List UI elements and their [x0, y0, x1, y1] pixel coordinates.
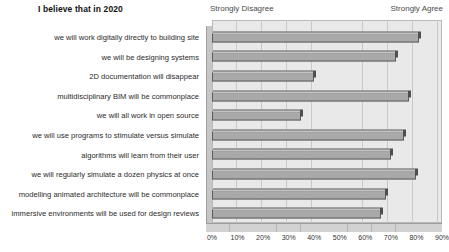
- x-axis-tick-label: 40%: [307, 234, 321, 241]
- bar[interactable]: [212, 151, 391, 160]
- bar-row: [212, 126, 442, 146]
- bar[interactable]: [212, 112, 301, 121]
- plot-area: [206, 20, 442, 232]
- category-label: we will work digitally directly to build…: [0, 28, 205, 48]
- x-axis-tick-label: 90%: [435, 234, 449, 241]
- category-label-text: multidisciplinary BIM will be commonplac…: [57, 93, 199, 101]
- page-title: I believe that in 2020: [38, 4, 123, 14]
- bar[interactable]: [212, 190, 386, 199]
- bar-row: [212, 87, 442, 107]
- x-axis-tick-label: 0%: [207, 234, 217, 241]
- plot-floor: [206, 223, 442, 232]
- category-label-text: we will work digitally directly to build…: [54, 34, 199, 42]
- category-label: we will all work in open source: [0, 106, 205, 126]
- category-label-list: we will work digitally directly to build…: [0, 28, 205, 224]
- bar-row: [212, 28, 442, 48]
- bar-row: [212, 48, 442, 68]
- x-axis: 0%10%20%30%40%50%60%70%80%90%: [206, 234, 442, 248]
- category-label: modelling animated architecture will be …: [0, 185, 205, 205]
- bar[interactable]: [212, 210, 381, 219]
- category-label: we will use programs to stimulate versus…: [0, 126, 205, 146]
- bar-series: [212, 28, 442, 224]
- x-axis-tick-label: 50%: [333, 234, 347, 241]
- axis-anchor-low-label: Strongly Disagree: [210, 4, 274, 13]
- category-label-text: algorithms will learn from their user: [81, 152, 199, 160]
- category-label: 2D documentation will disappear: [0, 67, 205, 87]
- bar[interactable]: [212, 72, 314, 81]
- x-axis-tick-label: 10%: [231, 234, 245, 241]
- category-label: multidisciplinary BIM will be commonplac…: [0, 87, 205, 107]
- bar[interactable]: [212, 92, 409, 101]
- bar-row: [212, 165, 442, 185]
- category-label-text: immersive environments will be used for …: [12, 210, 199, 218]
- bar-row: [212, 204, 442, 224]
- x-axis-tick-label: 30%: [282, 234, 296, 241]
- bar[interactable]: [212, 53, 396, 62]
- bar-row: [212, 146, 442, 166]
- category-label: algorithms will learn from their user: [0, 146, 205, 166]
- bar-row: [212, 67, 442, 87]
- axis-anchor-high-label: Strongly Agree: [391, 4, 443, 13]
- bar[interactable]: [212, 33, 419, 42]
- category-label-text: we will regularly simulate a dozen physi…: [31, 171, 199, 179]
- category-label: we will regularly simulate a dozen physi…: [0, 165, 205, 185]
- x-axis-tick-label: 80%: [409, 234, 423, 241]
- category-label-text: we will be designing systems: [102, 54, 200, 62]
- category-label-text: 2D documentation will disappear: [89, 73, 199, 81]
- category-label: immersive environments will be used for …: [0, 204, 205, 224]
- bar-row: [212, 185, 442, 205]
- category-label-text: we will all work in open source: [97, 112, 199, 120]
- x-axis-tick-label: 60%: [358, 234, 372, 241]
- category-label-text: we will use programs to stimulate versus…: [32, 132, 199, 140]
- x-axis-tick-label: 20%: [256, 234, 270, 241]
- category-label: we will be designing systems: [0, 48, 205, 68]
- bar-row: [212, 106, 442, 126]
- x-axis-tick-label: 70%: [384, 234, 398, 241]
- bar[interactable]: [212, 170, 416, 179]
- category-label-text: modelling animated architecture will be …: [19, 191, 199, 199]
- bar-chart: I believe that in 2020 Strongly Disagree…: [0, 0, 449, 252]
- bar[interactable]: [212, 131, 404, 140]
